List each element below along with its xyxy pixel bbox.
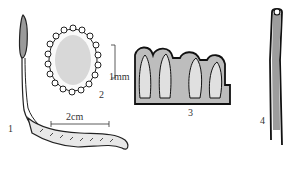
panel-label-1: 1 (8, 124, 13, 134)
scale-label-1mm: 1mm (109, 72, 130, 82)
ascus-illustration (270, 9, 282, 145)
panel-label-3: 3 (188, 108, 193, 118)
panel-label-2: 2 (99, 90, 104, 100)
figure-canvas: 1 2 3 4 2cm 1mm (0, 0, 300, 170)
panel-label-4: 4 (260, 116, 265, 126)
cross-section-illustration (45, 25, 101, 95)
scale-label-2cm: 2cm (66, 112, 83, 122)
illustration (0, 0, 300, 170)
perithecia-illustration (135, 47, 230, 104)
